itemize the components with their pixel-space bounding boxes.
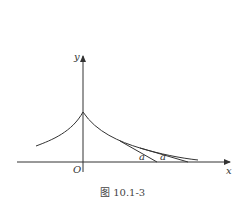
- x-axis-label: x: [226, 165, 232, 176]
- y-axis-label: y: [73, 51, 80, 62]
- diagram-canvas: y x O a a 图 10.1-3: [0, 0, 248, 212]
- curve-left-branch: [36, 112, 83, 146]
- figure-caption: 图 10.1-3: [100, 187, 145, 198]
- tangent-label-1: a: [139, 151, 145, 162]
- tangent-label-2: a: [160, 151, 166, 162]
- origin-label: O: [73, 164, 81, 175]
